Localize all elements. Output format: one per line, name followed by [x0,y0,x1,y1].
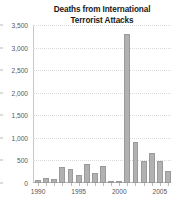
bar-2005 [157,161,163,183]
x-tick-label: 1990 [31,188,46,195]
bar-1996 [84,164,90,183]
y-tick-label: 3,500 [0,22,28,29]
x-axis: 1990199520002005 [33,183,171,207]
x-tick-mark [119,183,120,186]
bar-1993 [59,167,65,183]
bar-1997 [92,173,98,183]
y-tick-label: 3,000 [0,44,28,51]
chart-figure: Deaths from International Terrorist Atta… [0,0,177,211]
x-tick-mark [127,183,128,186]
y-tick-label: 1,000 [0,134,28,141]
x-tick-mark [144,183,145,186]
x-tick-label: 2000 [112,188,127,195]
plot-area [33,25,171,183]
x-tick-mark [111,183,112,186]
x-tick-mark [168,183,169,186]
x-tick-mark [38,183,39,186]
y-tick-label: 2,000 [0,89,28,96]
bar-2006 [165,171,171,183]
x-tick-mark [95,183,96,186]
x-tick-mark [135,183,136,186]
x-tick-label: 1995 [71,188,86,195]
bar-2001 [124,34,130,183]
x-tick-mark [46,183,47,186]
y-tick-label: 2,500 [0,67,28,74]
x-tick-mark [160,183,161,186]
bar-2004 [149,153,155,183]
x-tick-mark [87,183,88,186]
y-tick-label: 0 [0,180,28,187]
y-tick-label: 1,500 [0,112,28,119]
gridline [33,70,171,72]
bar-2002 [133,142,139,183]
y-tick-label: 500 [0,157,28,164]
bar-2003 [141,161,147,183]
x-tick-mark [152,183,153,186]
bar-1998 [100,166,106,183]
x-tick-mark [62,183,63,186]
gridline [33,48,171,50]
gridline [33,25,171,27]
gridline [33,115,171,117]
chart-title-line-1: Deaths from International [33,5,171,16]
x-tick-mark [54,183,55,186]
x-tick-label: 2005 [152,188,167,195]
y-axis: 05001,0001,5002,0002,5003,0003,500 [0,25,33,183]
chart-title: Deaths from International Terrorist Atta… [33,5,171,26]
bar-1995 [76,175,82,183]
gridline [33,138,171,140]
bar-1994 [68,169,74,183]
x-tick-mark [103,183,104,186]
x-tick-mark [71,183,72,186]
x-tick-mark [79,183,80,186]
gridline [33,93,171,95]
